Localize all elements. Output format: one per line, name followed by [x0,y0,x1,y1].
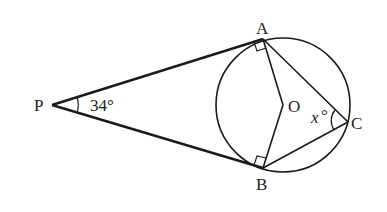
tangent-pb [52,105,263,168]
label-b: B [256,175,267,194]
tangent-pa [52,39,263,105]
angle-arc-c [331,110,335,130]
angle-label-c-var: x [310,108,319,127]
label-c: C [351,114,362,133]
angle-label-c-deg: ° [321,106,328,125]
geometry-diagram: P A B O C 34° x ° [0,0,387,212]
label-a: A [256,19,269,38]
label-o: O [288,97,300,116]
label-p: P [34,96,43,115]
angle-label-p: 34° [90,96,114,115]
angle-arc-p [77,97,78,113]
